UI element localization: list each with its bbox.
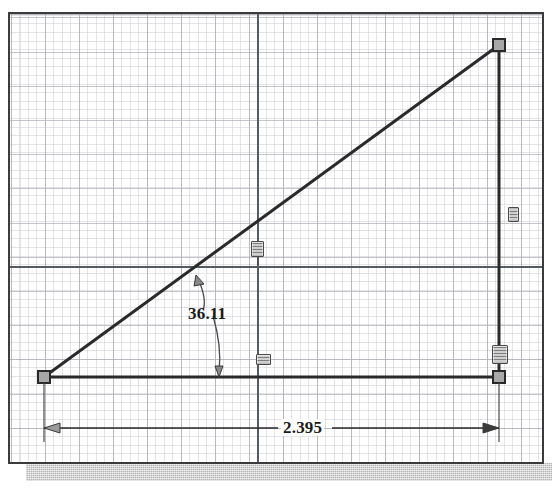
vertical-constraint-icon[interactable] [508,207,519,222]
coincident-constraint-icon[interactable] [251,241,264,257]
badge-leader-line [257,257,258,265]
angle-dimension-value[interactable]: 36.11 [188,305,226,322]
graphics-viewport[interactable]: 36.11 2.395 [8,12,544,464]
sketch-canvas[interactable]: 36.11 2.395 [0,0,552,492]
fixed-constraint-icon[interactable] [492,345,508,364]
sketch-geometry-layer[interactable] [10,14,544,464]
length-dimension[interactable] [44,383,499,442]
constraint-badge-hypotenuse[interactable] [249,241,267,263]
endpoint-bottom-right[interactable] [493,371,505,383]
angle-arrowhead-lower [215,366,223,377]
line-hypotenuse[interactable] [44,45,499,377]
constraint-badge-horizontal-line[interactable] [255,354,273,368]
endpoint-top-right[interactable] [493,39,505,51]
angle-arc-lower [213,316,220,372]
angle-arrowhead-upper [194,275,204,286]
constraint-badge-corner-fix[interactable] [491,345,511,369]
horizontal-constraint-icon[interactable] [256,354,271,365]
endpoint-bottom-left[interactable] [38,371,50,383]
dimension-arrowhead-right [483,423,499,433]
angle-dimension[interactable] [194,275,223,377]
frame-drop-shadow [26,463,552,481]
constraint-badge-vertical-line[interactable] [506,207,522,225]
dimension-arrowhead-left [44,423,60,433]
length-dimension-value[interactable]: 2.395 [281,419,324,436]
